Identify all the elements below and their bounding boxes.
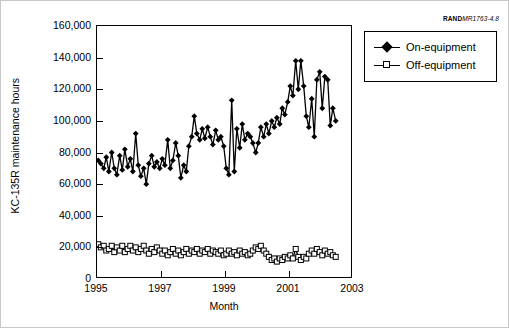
y-axis-tick-label: 100,000 — [21, 114, 91, 126]
data-point-diamond — [101, 165, 107, 171]
data-point-diamond — [111, 165, 117, 171]
data-point-diamond — [207, 134, 213, 140]
data-point-diamond — [117, 153, 123, 159]
data-point-diamond — [258, 124, 264, 130]
data-point-diamond — [231, 169, 237, 175]
data-point-diamond — [290, 93, 296, 99]
y-axis-tick-mark — [97, 184, 103, 185]
data-point-diamond — [255, 140, 261, 146]
data-point-diamond — [301, 83, 307, 89]
data-point-diamond — [237, 145, 243, 151]
y-axis-tick-mark — [97, 216, 103, 217]
data-point-diamond — [234, 126, 240, 132]
data-point-diamond — [183, 169, 189, 175]
rand-report-number: MR1763-4.8 — [462, 15, 499, 22]
chart-figure: RANDMR1763-4.8 KC-135R maintenance hours… — [0, 0, 509, 328]
data-point-diamond — [261, 134, 267, 140]
data-point-diamond — [330, 105, 336, 111]
y-axis-tick-label: 160,000 — [21, 19, 91, 31]
data-point-diamond — [119, 167, 125, 173]
data-point-diamond — [146, 161, 152, 167]
series-on-equipment — [97, 58, 339, 187]
legend-item-on-equipment: On-equipment — [365, 38, 496, 56]
data-point-diamond — [279, 105, 285, 111]
data-point-square — [120, 243, 125, 248]
data-point-diamond — [263, 121, 269, 127]
y-axis-tick-label: 140,000 — [21, 51, 91, 63]
data-point-diamond — [314, 77, 320, 83]
x-axis-tick-mark — [225, 271, 226, 277]
data-point-diamond — [186, 143, 192, 149]
data-point-diamond — [141, 165, 147, 171]
data-point-diamond — [295, 86, 301, 92]
data-point-diamond — [266, 131, 272, 137]
y-axis-tick-label: 40,000 — [21, 209, 91, 221]
x-axis-tick-mark — [161, 271, 162, 277]
x-axis-tick-label: 1995 — [84, 282, 107, 294]
data-point-diamond — [205, 124, 211, 130]
data-point-square — [109, 243, 114, 248]
data-point-diamond — [287, 83, 293, 89]
data-point-diamond — [202, 135, 208, 141]
data-point-diamond — [327, 123, 333, 129]
legend-label-on-equipment: On-equipment — [406, 41, 476, 53]
y-axis-tick-label: 20,000 — [21, 240, 91, 252]
data-point-diamond — [103, 154, 109, 160]
data-point-diamond — [197, 137, 203, 143]
series-layer — [97, 26, 353, 279]
data-point-diamond — [130, 169, 136, 175]
y-axis-tick-label: 120,000 — [21, 82, 91, 94]
data-point-diamond — [157, 165, 163, 171]
y-axis-tick-mark — [97, 121, 103, 122]
data-point-square — [333, 254, 338, 259]
rand-brand: RAND — [443, 15, 462, 22]
data-point-diamond — [106, 169, 112, 175]
data-point-square — [290, 256, 295, 261]
data-point-diamond — [293, 58, 299, 64]
data-point-diamond — [181, 162, 187, 168]
data-point-diamond — [170, 158, 176, 164]
data-point-diamond — [138, 173, 144, 179]
data-point-diamond — [298, 58, 304, 64]
x-axis-tick-mark — [289, 271, 290, 277]
data-point-diamond — [122, 146, 128, 152]
data-point-diamond — [242, 137, 248, 143]
data-point-diamond — [277, 121, 283, 127]
data-point-diamond — [165, 137, 171, 143]
data-point-diamond — [109, 150, 115, 156]
data-point-diamond — [210, 142, 216, 148]
data-point-diamond — [127, 156, 133, 162]
data-point-diamond — [175, 153, 181, 159]
data-point-square — [293, 246, 298, 251]
y-axis-tick-label: 60,000 — [21, 177, 91, 189]
data-point-diamond — [269, 118, 275, 124]
data-point-diamond — [239, 121, 245, 127]
y-axis-title-text: KC-135R maintenance hours — [9, 78, 21, 213]
data-point-diamond — [191, 113, 197, 119]
data-point-diamond — [167, 165, 173, 171]
plot-area — [96, 25, 352, 278]
x-axis-tick-label: 2003 — [340, 282, 363, 294]
y-axis-tick-mark — [97, 58, 103, 59]
data-point-diamond — [229, 97, 235, 103]
data-point-diamond — [178, 175, 184, 181]
data-point-diamond — [226, 172, 232, 178]
data-point-diamond — [223, 165, 229, 171]
data-point-diamond — [114, 172, 120, 178]
x-axis-title-text: Month — [209, 300, 238, 312]
data-point-diamond — [271, 124, 277, 130]
data-point-diamond — [149, 153, 155, 159]
data-point-diamond — [125, 164, 131, 170]
data-point-diamond — [162, 162, 168, 168]
y-axis-tick-label: 0 — [21, 272, 91, 284]
data-point-diamond — [199, 126, 205, 132]
y-axis-tick-mark — [97, 153, 103, 154]
legend-item-off-equipment: Off-equipment — [365, 56, 496, 74]
x-axis-tick-label: 1997 — [148, 282, 171, 294]
chart-legend: On-equipment Off-equipment — [364, 31, 497, 82]
data-point-diamond — [213, 127, 219, 133]
data-point-diamond — [317, 69, 323, 75]
y-axis-tick-mark — [97, 247, 103, 248]
rand-source-tag: RANDMR1763-4.8 — [443, 15, 499, 22]
data-point-diamond — [135, 162, 141, 168]
